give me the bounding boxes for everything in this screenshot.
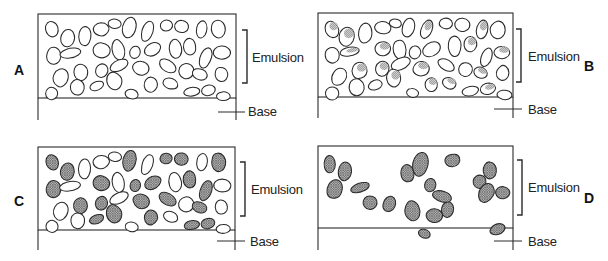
silver-halide-grain <box>216 92 230 101</box>
silver-halide-grain <box>349 79 364 96</box>
silver-halide-grain <box>122 17 136 37</box>
silver-halide-grain <box>351 182 369 192</box>
silver-halide-grain <box>46 220 58 232</box>
silver-halide-grain <box>393 40 406 59</box>
panel-label-d: D <box>584 190 594 206</box>
silver-halide-grain <box>324 156 335 173</box>
silver-halide-grain <box>216 225 230 234</box>
silver-halide-grain <box>196 21 207 38</box>
silver-halide-grain <box>71 213 85 229</box>
silver-halide-grain <box>96 64 108 78</box>
silver-halide-grain <box>73 198 87 214</box>
silver-halide-grain <box>45 21 58 36</box>
silver-halide-grain <box>160 59 176 73</box>
silver-halide-grain <box>133 194 149 209</box>
silver-halide-grain <box>368 80 382 90</box>
silver-halide-grain <box>412 152 428 176</box>
emulsion-bracket <box>516 29 521 82</box>
silver-halide-grain <box>93 23 109 36</box>
silver-halide-grain <box>383 196 396 211</box>
silver-halide-grain <box>60 48 81 58</box>
silver-halide-grain <box>215 200 227 214</box>
grains <box>45 17 230 100</box>
base-label-a: Base <box>248 104 277 119</box>
silver-halide-grain <box>184 220 199 229</box>
silver-halide-grain <box>192 202 207 213</box>
silver-halide-grain <box>174 153 188 165</box>
silver-halide-grain <box>70 80 84 96</box>
silver-halide-grain <box>211 20 225 38</box>
silver-halide-grain <box>439 18 452 29</box>
panel-a <box>38 14 247 120</box>
silver-halide-grain <box>433 191 452 203</box>
silver-halide-grain <box>93 155 109 168</box>
emulsion-bracket <box>242 30 247 83</box>
silver-halide-grain <box>175 20 189 32</box>
silver-halide-grain <box>363 196 377 210</box>
silver-halide-grain <box>133 61 149 75</box>
silver-halide-grain <box>438 59 454 72</box>
silver-halide-grain <box>441 202 453 218</box>
silver-halide-grain <box>53 69 68 87</box>
film-diagram: A B C D Emulsion Emulsion Emulsion Emuls… <box>0 0 608 261</box>
silver-halide-grain <box>79 27 91 46</box>
silver-halide-grain <box>112 172 124 192</box>
panel-c <box>38 147 245 250</box>
silver-halide-grain <box>483 162 496 179</box>
silver-halide-grain <box>402 18 415 37</box>
silver-halide-grain <box>110 192 128 205</box>
silver-halide-grain <box>112 40 125 60</box>
silver-halide-grain <box>159 192 176 206</box>
silver-halide-grain <box>496 187 510 199</box>
silver-halide-grain <box>179 63 194 78</box>
diagram-canvas <box>0 0 608 261</box>
silver-halide-grain <box>47 47 61 64</box>
base-label-b: Base <box>528 102 557 117</box>
emulsion-label-d: Emulsion <box>528 180 580 195</box>
emulsion-label-b: Emulsion <box>528 49 580 64</box>
silver-halide-grain <box>184 87 200 96</box>
silver-halide-grain <box>183 171 195 188</box>
silver-halide-grain <box>108 19 121 28</box>
silver-halide-grain <box>53 202 68 220</box>
silver-halide-grain <box>496 65 509 80</box>
silver-halide-grain <box>141 21 153 41</box>
silver-halide-grain <box>212 153 226 172</box>
silver-halide-grain <box>160 153 172 164</box>
silver-halide-grain <box>123 151 137 172</box>
silver-halide-grain <box>375 21 391 33</box>
grains <box>46 151 231 234</box>
silver-halide-grain <box>462 86 478 96</box>
silver-halide-grain <box>106 205 121 223</box>
silver-halide-grain <box>163 211 177 222</box>
silver-halide-grain <box>74 64 88 80</box>
grains <box>325 18 512 100</box>
silver-halide-grain <box>425 178 436 191</box>
panel-b <box>318 13 522 118</box>
silver-halide-grain <box>338 162 351 181</box>
silver-halide-grain <box>144 43 160 57</box>
silver-halide-grain <box>108 152 121 161</box>
silver-halide-grain <box>448 36 461 56</box>
silver-halide-grain <box>405 201 420 221</box>
silver-halide-grain <box>358 23 371 43</box>
panel-d <box>318 146 522 250</box>
silver-halide-grain <box>144 77 157 92</box>
silver-halide-grain <box>325 47 339 63</box>
silver-halide-grain <box>169 39 182 58</box>
silver-halide-grain <box>46 180 61 197</box>
silver-halide-grain <box>418 229 430 238</box>
silver-halide-grain <box>497 90 512 99</box>
silver-halide-grain <box>426 209 442 223</box>
silver-halide-grain <box>46 155 59 170</box>
emulsion-bracket <box>517 160 522 215</box>
silver-halide-grain <box>480 48 492 66</box>
base-label-d: Base <box>528 234 557 249</box>
silver-halide-grain <box>455 18 470 31</box>
silver-halide-grain <box>130 180 141 192</box>
silver-halide-grain <box>145 176 161 190</box>
silver-halide-grain <box>46 87 58 99</box>
silver-halide-grain <box>327 180 342 199</box>
silver-halide-grain <box>60 163 74 180</box>
silver-halide-grain <box>192 69 207 80</box>
